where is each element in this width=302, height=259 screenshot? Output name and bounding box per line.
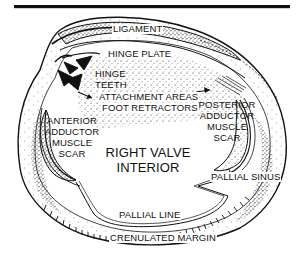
label-posterior-1: POSTERIOR bbox=[196, 100, 258, 110]
label-hinge-plate: HINGE PLATE bbox=[107, 49, 172, 59]
clam-shell-diagram: LIGAMENT HINGE PLATE HINGE TEETH ATTACHM… bbox=[0, 0, 302, 259]
label-hinge-teeth-2: TEETH bbox=[95, 80, 127, 90]
top-rule bbox=[14, 5, 290, 8]
label-anterior-3: MUSCLE bbox=[42, 138, 102, 148]
label-posterior-3: MUSCLE bbox=[196, 122, 258, 132]
label-foot-retractors: FOOT RETRACTORS bbox=[101, 103, 199, 113]
label-center-1: RIGHT VALVE bbox=[98, 146, 198, 159]
label-ligament: LIGAMENT bbox=[112, 24, 163, 34]
label-crenulated-margin: CRENULATED MARGIN bbox=[109, 233, 217, 243]
label-posterior-4: SCAR bbox=[196, 133, 258, 143]
label-anterior-1: ANTERIOR bbox=[42, 116, 102, 126]
label-anterior-4: SCAR bbox=[42, 149, 102, 159]
label-anterior-2: ADDUCTOR bbox=[42, 127, 102, 137]
label-attachment-areas: ATTACHMENT AREAS bbox=[98, 92, 199, 102]
label-center-2: INTERIOR bbox=[98, 161, 198, 174]
label-pallial-sinus: PALLIAL SINUS bbox=[210, 172, 281, 182]
label-pallial-line: PALLIAL LINE bbox=[118, 210, 181, 220]
label-posterior-2: ADDUCTOR bbox=[196, 111, 258, 121]
label-hinge-teeth-1: HINGE bbox=[95, 69, 126, 79]
